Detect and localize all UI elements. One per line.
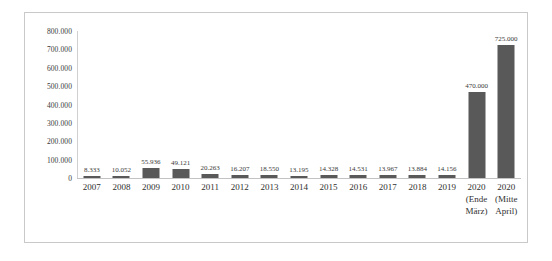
y-axis-tick-label: 200.000: [47, 137, 72, 146]
bar[interactable]: 14.328: [320, 175, 337, 178]
x-axis-category-label: 2010: [166, 181, 196, 193]
y-axis-tick-label: 100.000: [47, 155, 72, 164]
plot-area: 0100.000200.000300.000400.000500.000600.…: [77, 31, 521, 178]
bar-slot: 13.195: [284, 31, 314, 178]
bar-slot: 13.967: [373, 31, 403, 178]
x-axis-label-line: April): [491, 205, 521, 217]
bar-value-label: 13.967: [378, 165, 397, 173]
y-axis-tick-label: 500.000: [47, 82, 72, 91]
bar-slot: 55.936: [136, 31, 166, 178]
bar[interactable]: 13.884: [409, 175, 426, 178]
bar[interactable]: 20.263: [202, 174, 219, 178]
bar[interactable]: 16.207: [231, 175, 248, 178]
x-axis-category-label: 2018: [403, 181, 433, 193]
bar[interactable]: 10.052: [113, 176, 130, 178]
bar[interactable]: 725.000: [498, 45, 515, 178]
x-axis-label-line: 2014: [284, 181, 314, 193]
bar-value-label: 13.884: [408, 165, 427, 173]
bar-slot: 20.263: [195, 31, 225, 178]
x-axis-category-label: 2016: [343, 181, 373, 193]
bar-value-label: 14.531: [349, 165, 368, 173]
y-axis-tick-label: 0: [68, 174, 72, 183]
bar-value-label: 10.052: [112, 166, 131, 174]
x-axis-category-label: 2012: [225, 181, 255, 193]
bar-value-label: 14.156: [437, 165, 456, 173]
bar[interactable]: 13.195: [290, 176, 307, 178]
bar[interactable]: 470.000: [468, 92, 485, 178]
x-axis-label-line: 2013: [255, 181, 285, 193]
bar-value-label: 14.328: [319, 165, 338, 173]
bar-value-label: 49.121: [171, 159, 190, 167]
bar-value-label: 16.207: [230, 165, 249, 173]
bar[interactable]: 55.936: [142, 168, 159, 178]
bar-slot: 10.052: [107, 31, 137, 178]
x-axis-label-line: 2011: [195, 181, 225, 193]
bar[interactable]: 49.121: [172, 169, 189, 178]
x-axis-label-line: 2009: [136, 181, 166, 193]
x-axis-category-label: 2020(EndeMärz): [462, 181, 492, 217]
x-axis-label-line: 2015: [314, 181, 344, 193]
x-axis-label-line: 2010: [166, 181, 196, 193]
x-axis-label-line: (Ende: [462, 193, 492, 205]
bar-value-label: 8.333: [84, 166, 100, 174]
x-axis-category-label: 2015: [314, 181, 344, 193]
x-axis-category-label: 2020(MitteApril): [491, 181, 521, 217]
chart-frame: 0100.000200.000300.000400.000500.000600.…: [24, 12, 528, 243]
bar-value-label: 20.263: [201, 164, 220, 172]
bar[interactable]: 13.967: [379, 175, 396, 178]
x-axis-label-line: 2019: [432, 181, 462, 193]
x-axis-category-label: 2009: [136, 181, 166, 193]
x-axis-label-line: 2018: [403, 181, 433, 193]
x-axis-label-line: 2017: [373, 181, 403, 193]
x-axis-label-line: 2012: [225, 181, 255, 193]
bar-value-label: 55.936: [141, 158, 160, 166]
bar[interactable]: 18.550: [261, 175, 278, 178]
x-axis-line: [77, 178, 521, 179]
y-axis-tick-label: 600.000: [47, 63, 72, 72]
x-axis-label-line: 2007: [77, 181, 107, 193]
x-axis-category-label: 2008: [107, 181, 137, 193]
x-axis-category-label: 2011: [195, 181, 225, 193]
x-axis-label-line: März): [462, 205, 492, 217]
x-axis-label-line: 2020: [491, 181, 521, 193]
y-axis-tick-label: 400.000: [47, 100, 72, 109]
x-axis-category-label: 2007: [77, 181, 107, 193]
bar-slot: 8.333: [77, 31, 107, 178]
x-axis-category-label: 2019: [432, 181, 462, 193]
bar-slot: 18.550: [255, 31, 285, 178]
y-axis-tick-label: 700.000: [47, 45, 72, 54]
y-axis-tick-label: 800.000: [47, 27, 72, 36]
bar-value-label: 18.550: [260, 165, 279, 173]
bar-value-label: 470.000: [465, 82, 488, 90]
x-axis-category-label: 2014: [284, 181, 314, 193]
x-axis-category-label: 2013: [255, 181, 285, 193]
bar-slot: 14.328: [314, 31, 344, 178]
x-axis-category-label: 2017: [373, 181, 403, 193]
bar-slot: 16.207: [225, 31, 255, 178]
x-axis-label-line: 2016: [343, 181, 373, 193]
bar-slot: 725.000: [491, 31, 521, 178]
x-axis-label-line: 2008: [107, 181, 137, 193]
bar-slot: 49.121: [166, 31, 196, 178]
bar[interactable]: 14.531: [350, 175, 367, 178]
bar-value-label: 725.000: [495, 35, 518, 43]
bar-slot: 13.884: [403, 31, 433, 178]
bar-slot: 14.156: [432, 31, 462, 178]
x-axis-label-line: (Mitte: [491, 193, 521, 205]
bar-slot: 14.531: [343, 31, 373, 178]
x-axis-label-line: 2020: [462, 181, 492, 193]
bar[interactable]: 14.156: [438, 175, 455, 178]
bar-value-label: 13.195: [289, 166, 308, 174]
y-axis-tick-label: 300.000: [47, 118, 72, 127]
x-axis-category-labels: 2007200820092010201120122013201420152016…: [77, 181, 521, 241]
bar[interactable]: 8.333: [83, 176, 100, 178]
bar-slot: 470.000: [462, 31, 492, 178]
